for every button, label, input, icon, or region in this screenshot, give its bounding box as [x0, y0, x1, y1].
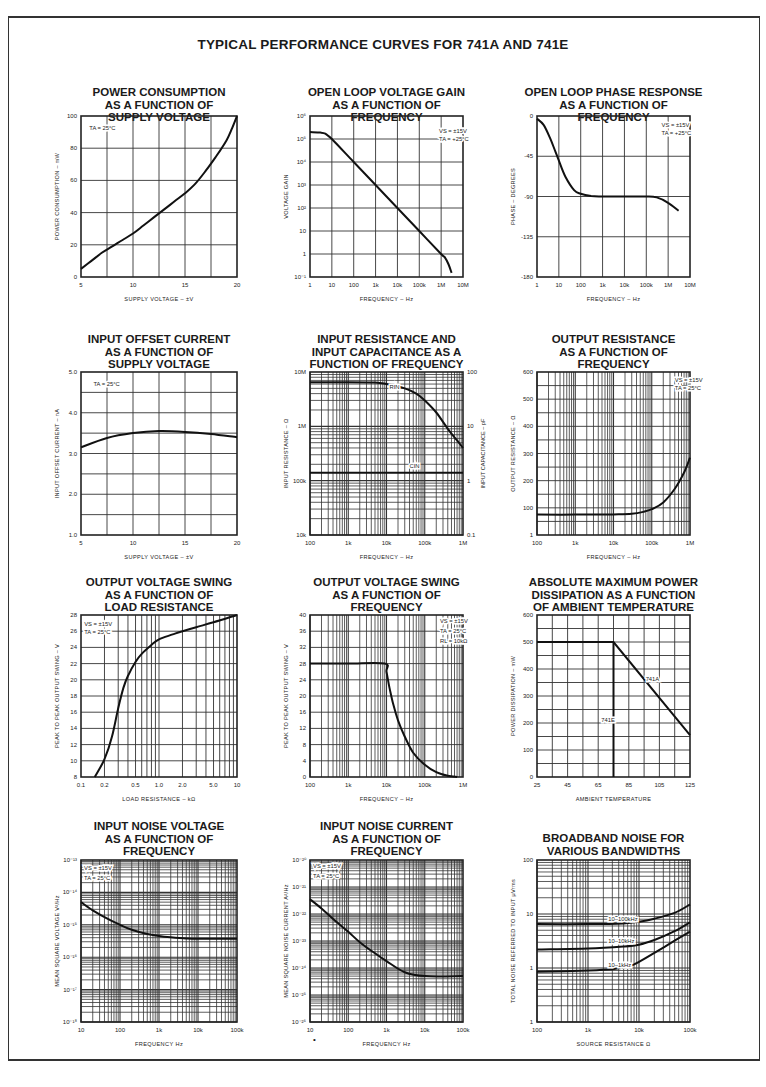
svg-text:0.1: 0.1 [77, 782, 86, 788]
svg-text:20: 20 [234, 282, 241, 288]
svg-text:1M: 1M [686, 540, 694, 546]
svg-text:-180: -180 [521, 274, 534, 280]
svg-text:10⁵: 10⁵ [297, 136, 307, 142]
svg-text:741A: 741A [646, 676, 660, 682]
chart-open-loop-phase: 1101001k10k100k1M10M0-45-90-135-180FREQU… [537, 116, 690, 277]
svg-text:10k: 10k [420, 1027, 431, 1033]
svg-text:3.0: 3.0 [69, 451, 78, 457]
svg-text:100: 100 [343, 1027, 354, 1033]
svg-text:600: 600 [523, 369, 534, 375]
svg-text:0.5: 0.5 [131, 782, 140, 788]
svg-text:VS = ±15V: VS = ±15V [440, 618, 468, 624]
svg-text:5.0: 5.0 [209, 782, 218, 788]
svg-text:1M: 1M [437, 282, 445, 288]
svg-text:1M: 1M [459, 782, 467, 788]
svg-text:100: 100 [523, 505, 534, 511]
svg-text:10M: 10M [294, 369, 306, 375]
chart-input-noise-voltage: 101001k10k100k10⁻¹⁸10⁻¹⁷10⁻¹⁶10⁻¹⁵10⁻¹⁴1… [81, 860, 237, 1022]
svg-text:60: 60 [70, 177, 77, 183]
svg-text:100k: 100k [230, 1027, 244, 1033]
svg-text:500: 500 [523, 639, 534, 645]
chart-output-swing-load: 0.10.20.51.02.05.01081012141618202224262… [81, 615, 237, 777]
svg-text:FREQUENCY – Hz: FREQUENCY – Hz [360, 296, 414, 302]
svg-text:18: 18 [70, 693, 77, 699]
svg-text:TA = 25°C: TA = 25°C [313, 873, 339, 879]
svg-text:INPUT CAPACITANCE – pF: INPUT CAPACITANCE – pF [480, 418, 486, 489]
svg-text:10: 10 [526, 911, 533, 917]
svg-text:PHASE – DEGREES: PHASE – DEGREES [510, 168, 516, 225]
svg-text:RL = 10kΩ: RL = 10kΩ [440, 638, 468, 644]
svg-text:10⁻¹⁴: 10⁻¹⁴ [63, 889, 78, 895]
svg-text:100: 100 [576, 282, 587, 288]
svg-text:TA = 25°C: TA = 25°C [675, 385, 701, 391]
svg-text:24: 24 [70, 644, 77, 650]
svg-text:10k: 10k [620, 282, 631, 288]
svg-text:10k: 10k [393, 282, 404, 288]
svg-text:1.0: 1.0 [69, 532, 78, 538]
svg-text:PEAK TO PEAK OUTPUT SWING – V: PEAK TO PEAK OUTPUT SWING – V [54, 644, 60, 748]
svg-text:10: 10 [130, 540, 137, 546]
svg-text:14: 14 [70, 725, 77, 731]
svg-text:25: 25 [534, 782, 541, 788]
svg-text:10⁻¹⁵: 10⁻¹⁵ [63, 922, 78, 928]
chart-input-offset-current: 51015201.02.03.04.05.0SUPPLY VOLTAGE – ±… [81, 372, 237, 535]
chart-title-output-resistance: OUTPUT RESISTANCE AS A FUNCTION OF FREQU… [497, 333, 730, 371]
svg-text:45: 45 [564, 782, 571, 788]
svg-text:OUTPUT RESISTANCE – Ω: OUTPUT RESISTANCE – Ω [510, 415, 516, 491]
chart-power-consumption: 5101520020406080100SUPPLY VOLTAGE – ±VPO… [81, 116, 237, 277]
svg-text:LOAD RESISTANCE – kΩ: LOAD RESISTANCE – kΩ [122, 796, 195, 802]
chart-title-max-power-dissipation: ABSOLUTE MAXIMUM POWER DISSIPATION AS A … [497, 576, 730, 614]
grid-lines [81, 116, 237, 277]
svg-text:TA = +25°C: TA = +25°C [662, 130, 692, 136]
svg-text:FREQUENCY – Hz: FREQUENCY – Hz [360, 554, 414, 560]
svg-text:100k: 100k [640, 282, 654, 288]
svg-text:1k: 1k [572, 540, 579, 546]
svg-text:0.1: 0.1 [467, 532, 476, 538]
svg-text:100k: 100k [456, 1027, 470, 1033]
svg-text:TA = +25°C: TA = +25°C [439, 136, 469, 142]
chart-title-input-noise-current: INPUT NOISE CURRENT AS A FUNCTION OF FRE… [270, 820, 503, 858]
svg-text:10k: 10k [382, 540, 393, 546]
svg-text:1k: 1k [345, 540, 352, 546]
svg-text:POWER CONSUMPTION – mW: POWER CONSUMPTION – mW [54, 152, 60, 240]
svg-text:100: 100 [349, 282, 360, 288]
svg-text:1k: 1k [599, 282, 606, 288]
grid-lines [81, 372, 237, 535]
svg-text:24: 24 [299, 677, 306, 683]
svg-text:2.0: 2.0 [69, 491, 78, 497]
svg-text:CIN: CIN [410, 463, 420, 469]
svg-text:1k: 1k [585, 1027, 592, 1033]
svg-text:SUPPLY VOLTAGE – ±V: SUPPLY VOLTAGE – ±V [124, 296, 193, 302]
svg-text:12: 12 [70, 742, 77, 748]
svg-text:100k: 100k [418, 540, 432, 546]
svg-text:FREQUENCY Hz: FREQUENCY Hz [362, 1041, 410, 1047]
svg-text:10M: 10M [457, 282, 469, 288]
svg-text:16: 16 [70, 709, 77, 715]
svg-text:15: 15 [182, 282, 189, 288]
svg-text:100: 100 [523, 857, 534, 863]
svg-text:10: 10 [78, 1027, 85, 1033]
svg-text:10⁻²³: 10⁻²³ [292, 938, 306, 944]
svg-text:40: 40 [70, 210, 77, 216]
svg-text:SOURCE RESISTANCE Ω: SOURCE RESISTANCE Ω [576, 1041, 650, 1047]
svg-text:200: 200 [523, 478, 534, 484]
svg-text:10: 10 [556, 282, 563, 288]
svg-text:125: 125 [685, 782, 696, 788]
chart-output-swing-frequency: 1001k10k100k1M0481216202428323640FREQUEN… [310, 615, 463, 777]
svg-text:10²: 10² [297, 205, 306, 211]
svg-text:10: 10 [467, 423, 474, 429]
chart-open-loop-gain: 1101001k10k100k1M10M10⁻¹11010²10³10⁴10⁵1… [310, 116, 463, 277]
svg-text:0.2: 0.2 [100, 782, 109, 788]
svg-text:-135: -135 [521, 234, 534, 240]
svg-text:10⁴: 10⁴ [297, 159, 307, 165]
chart-title-input-noise-voltage: INPUT NOISE VOLTAGE AS A FUNCTION OF FRE… [41, 820, 277, 858]
svg-text:20: 20 [70, 677, 77, 683]
svg-text:100: 100 [305, 540, 316, 546]
svg-text:4.0: 4.0 [69, 410, 78, 416]
svg-text:10k: 10k [634, 1027, 645, 1033]
svg-text:10³: 10³ [297, 182, 306, 188]
svg-text:26: 26 [70, 628, 77, 634]
svg-text:16: 16 [299, 709, 306, 715]
svg-text:SUPPLY VOLTAGE – ±V: SUPPLY VOLTAGE – ±V [124, 554, 193, 560]
svg-text:28: 28 [299, 661, 306, 667]
